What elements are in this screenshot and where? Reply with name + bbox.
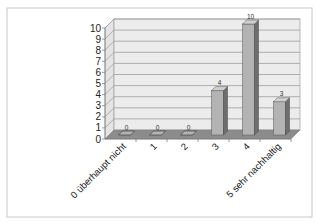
y-tick-label: 9: [95, 34, 101, 45]
y-tick-label: 3: [95, 100, 101, 111]
y-tick-label: 1: [95, 122, 101, 133]
y-tick-label: 0: [95, 134, 101, 145]
data-label: 10: [247, 13, 255, 20]
bar-chart: 012345678910 0 überhaupt nicht12345 sehr…: [0, 0, 316, 224]
y-tick-label: 5: [95, 78, 101, 89]
plot-area: [105, 19, 300, 139]
data-label: 0: [187, 124, 191, 131]
y-tick-label: 6: [95, 67, 101, 78]
y-tick-label: 4: [95, 89, 101, 100]
y-tick-label: 7: [95, 56, 101, 67]
bar: 10: [243, 13, 259, 136]
y-tick-label: 8: [95, 45, 101, 56]
y-tick-label: 10: [90, 23, 102, 34]
data-label: 0: [156, 124, 160, 131]
y-tick-label: 2: [95, 111, 101, 122]
data-label: 4: [218, 79, 222, 86]
data-label: 3: [280, 90, 284, 97]
data-label: 0: [125, 124, 129, 131]
